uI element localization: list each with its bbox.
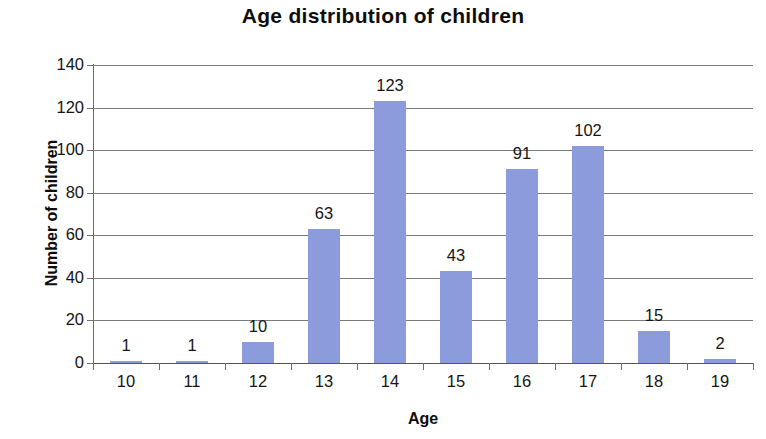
x-tick-label: 18: [621, 372, 687, 391]
x-tick-label: 19: [687, 372, 753, 391]
bar-value-label: 123: [357, 76, 423, 95]
gridline: [93, 65, 753, 66]
x-tick-mark: [93, 363, 94, 370]
bar-value-label: 15: [621, 306, 687, 325]
bar: [704, 359, 736, 363]
y-tick-mark: [87, 278, 94, 279]
bar-value-label: 91: [489, 144, 555, 163]
y-tick-mark: [87, 235, 94, 236]
x-tick-mark: [225, 363, 226, 370]
y-tick-mark: [87, 150, 94, 151]
x-tick-label: 14: [357, 372, 423, 391]
bar: [572, 146, 604, 363]
bar-value-label: 10: [225, 317, 291, 336]
gridline: [93, 150, 753, 151]
x-tick-label: 12: [225, 372, 291, 391]
bar-value-label: 43: [423, 246, 489, 265]
chart-title: Age distribution of children: [0, 4, 766, 28]
y-tick-mark: [87, 320, 94, 321]
gridline: [93, 108, 753, 109]
x-tick-label: 17: [555, 372, 621, 391]
bar-value-label: 102: [555, 121, 621, 140]
bar: [110, 361, 142, 363]
x-axis-title: Age: [93, 410, 753, 428]
y-tick-label: 0: [36, 353, 84, 372]
x-tick-label: 15: [423, 372, 489, 391]
x-tick-label: 10: [93, 372, 159, 391]
bar: [374, 101, 406, 363]
bar: [308, 229, 340, 363]
x-tick-mark: [621, 363, 622, 370]
y-tick-label: 60: [36, 225, 84, 244]
y-tick-label: 80: [36, 183, 84, 202]
x-tick-mark: [357, 363, 358, 370]
x-tick-mark: [423, 363, 424, 370]
bar: [176, 361, 208, 363]
x-tick-mark: [687, 363, 688, 370]
x-tick-label: 11: [159, 372, 225, 391]
x-tick-mark: [291, 363, 292, 370]
y-tick-label: 20: [36, 310, 84, 329]
bar: [440, 271, 472, 363]
y-tick-mark: [87, 108, 94, 109]
bar-value-label: 63: [291, 204, 357, 223]
gridline: [93, 278, 753, 279]
y-tick-label: 100: [36, 140, 84, 159]
bar: [242, 342, 274, 363]
bar-value-label: 1: [93, 336, 159, 355]
gridline: [93, 193, 753, 194]
y-tick-label: 120: [36, 98, 84, 117]
bar-chart: Age distribution of children Number of c…: [0, 0, 766, 439]
gridline: [93, 235, 753, 236]
y-tick-mark: [87, 193, 94, 194]
bar: [638, 331, 670, 363]
y-tick-label: 40: [36, 268, 84, 287]
x-tick-mark: [159, 363, 160, 370]
y-tick-mark: [87, 65, 94, 66]
x-tick-label: 13: [291, 372, 357, 391]
bar-value-label: 1: [159, 336, 225, 355]
bar: [506, 169, 538, 363]
x-tick-mark: [489, 363, 490, 370]
x-tick-mark: [555, 363, 556, 370]
x-tick-mark: [753, 363, 754, 370]
bar-value-label: 2: [687, 334, 753, 353]
x-tick-label: 16: [489, 372, 555, 391]
y-tick-label: 140: [36, 55, 84, 74]
